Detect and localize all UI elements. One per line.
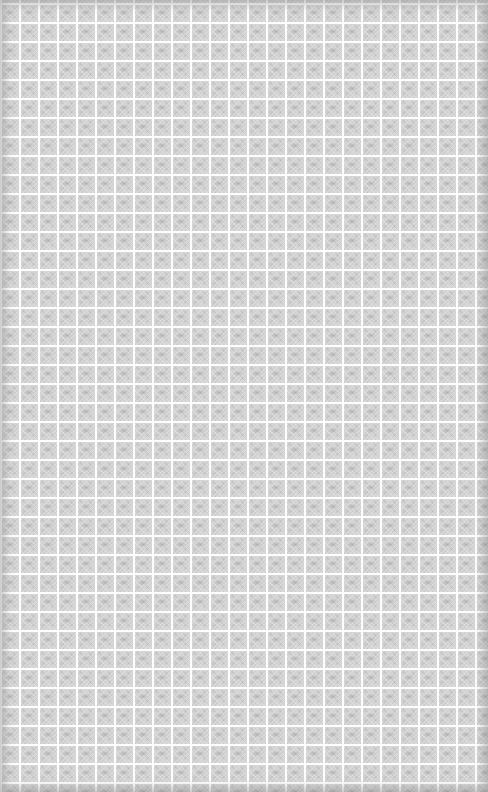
edge-vignette <box>0 0 488 792</box>
textured-background <box>0 0 488 792</box>
